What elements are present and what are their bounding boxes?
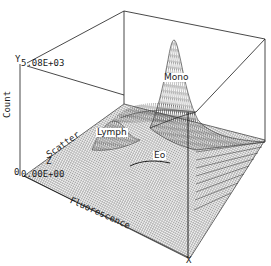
- peak-label-mono: Mono: [163, 73, 189, 82]
- z-axis-marker: Z: [46, 157, 51, 166]
- origin-label: 0: [14, 168, 19, 177]
- x-axis-marker: X: [186, 256, 191, 265]
- peak-label-lymph: Lymph: [96, 128, 128, 137]
- y-min-label: 0.00E+00: [21, 170, 64, 179]
- y-axis-marker: Y: [15, 55, 20, 64]
- mono-peak: [150, 40, 265, 150]
- y-axis-title: Count: [3, 91, 12, 118]
- peak-label-eo: Eo: [153, 151, 166, 160]
- surface-plot: [0, 0, 271, 266]
- surface-floor-shade: [24, 104, 265, 258]
- y-max-label: 5.08E+03: [21, 59, 64, 68]
